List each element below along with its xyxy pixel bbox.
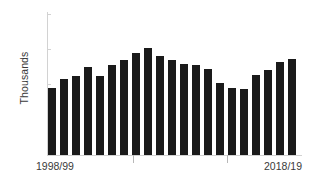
bar <box>216 83 224 155</box>
x-tick-mark-mid-2 <box>227 155 228 163</box>
bar <box>144 48 152 155</box>
bar <box>252 75 260 155</box>
bar <box>264 70 272 155</box>
plot-area <box>48 12 296 155</box>
bar <box>120 60 128 155</box>
x-axis-label-start: 1998/99 <box>36 160 74 172</box>
bar <box>240 89 248 155</box>
bar <box>180 64 188 155</box>
bar <box>72 76 80 155</box>
bar <box>60 79 68 155</box>
bar <box>156 56 164 155</box>
bar <box>96 76 104 155</box>
bar <box>192 65 200 155</box>
x-tick-mark-mid-1 <box>133 155 134 163</box>
bar <box>276 62 284 155</box>
bar <box>48 88 56 155</box>
bar <box>84 67 92 155</box>
bar-series <box>48 12 296 155</box>
x-axis-label-end: 2018/19 <box>264 160 302 172</box>
x-axis-line <box>47 155 302 156</box>
bar <box>132 53 140 155</box>
bar <box>108 65 116 155</box>
y-axis-title: Thousands <box>18 23 30 133</box>
bar <box>204 69 212 155</box>
bar-chart: Thousands 8 6 4 2 1998/99 2018/19 <box>0 0 310 184</box>
bar <box>228 88 236 155</box>
bar <box>168 60 176 155</box>
bar <box>288 59 296 155</box>
